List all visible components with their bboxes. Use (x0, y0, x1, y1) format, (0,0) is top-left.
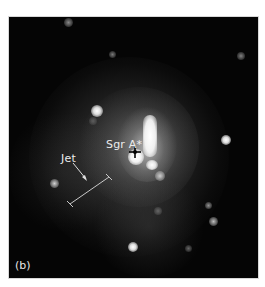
panel-label: (b) (15, 259, 31, 272)
jet-label: Jet (61, 153, 76, 164)
jet-scale-bar (67, 174, 112, 207)
sgr-a-label: Sgr A* (106, 139, 142, 150)
xray-image-panel: Sgr A* Jet (b) (8, 16, 259, 279)
jet-arrow-icon (73, 163, 87, 181)
